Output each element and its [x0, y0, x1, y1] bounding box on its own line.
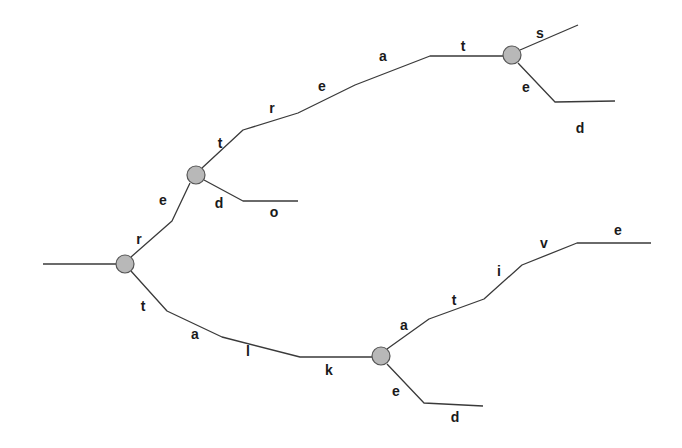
- edge-letter-label: a: [191, 327, 199, 341]
- trie-graph: [0, 0, 682, 448]
- edge-letter-label: o: [270, 205, 279, 219]
- edge-letter-label: e: [159, 193, 167, 207]
- edge-letter-label: d: [451, 410, 460, 424]
- edge-letter-label: r: [269, 101, 274, 115]
- branch-node-n1: [116, 255, 134, 273]
- branch-node-n3: [503, 46, 521, 64]
- branch-node-n4: [372, 347, 390, 365]
- edge-letter-label: t: [452, 293, 457, 307]
- edge-letter-label: i: [497, 264, 501, 278]
- edge-letter-label: k: [325, 363, 333, 377]
- edge-s-branch: [520, 25, 578, 50]
- edge-letter-label: l: [246, 344, 250, 358]
- edge-ed-branch: [518, 63, 615, 102]
- edge-letter-label: t: [141, 299, 146, 313]
- edge-talk-path: [131, 271, 372, 357]
- edge-letter-label: e: [614, 223, 622, 237]
- edge-letter-label: e: [392, 384, 400, 398]
- edge-letter-label: e: [318, 79, 326, 93]
- edge-letter-label: a: [400, 318, 408, 332]
- edge-letter-label: a: [379, 49, 387, 63]
- edge-letter-label: t: [218, 136, 223, 150]
- edge-letter-label: d: [576, 121, 585, 135]
- edge-letter-label: t: [461, 39, 466, 53]
- edge-treat-path: [202, 56, 503, 168]
- edge-letter-label: s: [536, 26, 544, 40]
- trie-diagram: retreatseddotalkativeed: [0, 0, 682, 448]
- edges-group: [43, 25, 651, 406]
- edge-ative-path: [387, 243, 651, 349]
- edge-ed2-branch: [387, 364, 483, 406]
- edge-letter-label: e: [522, 80, 530, 94]
- edge-letter-label: d: [215, 196, 224, 210]
- edge-letter-label: v: [540, 236, 548, 250]
- branch-node-n2: [187, 166, 205, 184]
- edge-letter-label: r: [136, 232, 141, 246]
